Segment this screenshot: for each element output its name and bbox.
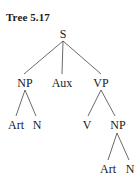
node-aux: Aux [52, 76, 73, 90]
tree-branches [16, 41, 129, 160]
syntax-tree: S NP Aux VP Art N V NP Art N [0, 0, 140, 188]
node-np-object: NP [110, 118, 126, 132]
node-art: Art [8, 118, 25, 132]
node-s: S [60, 27, 67, 41]
branch-vp-np [101, 90, 115, 116]
node-v: V [83, 118, 92, 132]
branch-s-np [24, 41, 63, 74]
branch-s-aux [62, 41, 63, 74]
branch-np-n [25, 90, 36, 116]
branch-np2-art [108, 133, 117, 160]
branch-vp-v [88, 90, 101, 116]
node-vp: VP [93, 76, 109, 90]
node-n: N [33, 118, 42, 132]
branch-np2-n [117, 133, 129, 160]
node-art-object: Art [100, 162, 117, 176]
node-n-object: N [126, 162, 135, 176]
branch-np-art [16, 90, 25, 116]
node-np: NP [17, 76, 33, 90]
branch-s-vp [63, 41, 101, 74]
